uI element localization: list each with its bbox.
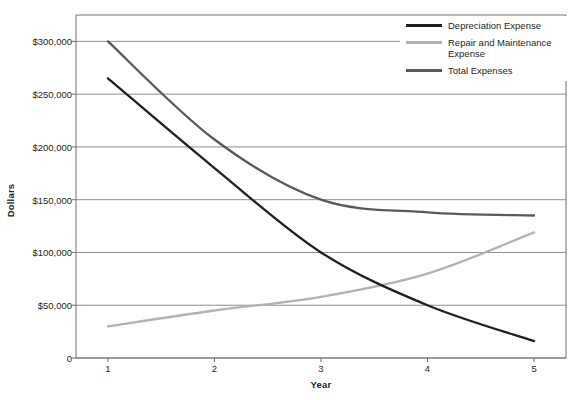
legend-item: Repair and Maintenance Expense: [406, 37, 566, 60]
legend-color-swatch: [406, 24, 442, 27]
chart-legend: Depreciation ExpenseRepair and Maintenan…: [400, 16, 568, 81]
x-axis-tick-label: 1: [105, 363, 110, 374]
legend-item-label: Total Expenses: [448, 65, 566, 77]
legend-item: Total Expenses: [406, 65, 566, 77]
legend-item-label: Repair and Maintenance Expense: [448, 37, 566, 60]
x-axis-tick-label: 5: [531, 363, 536, 374]
x-axis-tick-label: 4: [425, 363, 430, 374]
x-axis-tick-label: 3: [318, 363, 323, 374]
chart-container: Dollars $300,000$250,000$200,000$150,000…: [0, 0, 579, 400]
x-axis-title: Year: [76, 379, 566, 390]
legend-item-label: Depreciation Expense: [448, 20, 566, 32]
legend-color-swatch: [406, 41, 442, 44]
legend-color-swatch: [406, 69, 442, 72]
legend-item: Depreciation Expense: [406, 20, 566, 32]
x-axis-tick-label: 2: [212, 363, 217, 374]
